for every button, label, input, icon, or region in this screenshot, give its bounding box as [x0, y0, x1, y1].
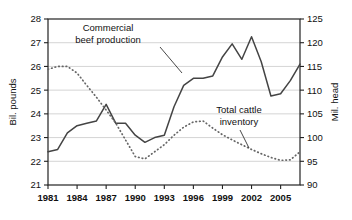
x-tick-label: 1996	[183, 192, 204, 203]
y-tick-label-left: 27	[30, 37, 41, 48]
y-tick-label-right: 95	[307, 156, 318, 167]
y-tick-label-right: 125	[307, 13, 323, 24]
x-tick-label: 2005	[270, 192, 292, 203]
x-tick-label: 1984	[67, 192, 89, 203]
annotation-label: inventory	[220, 116, 259, 127]
y-tick-label-right: 100	[307, 132, 323, 143]
x-axis-tick-labels: 198119841987199019931996199920022005	[37, 192, 291, 203]
x-tick-label: 1999	[212, 192, 233, 203]
y-tick-label-left: 22	[30, 156, 41, 167]
y-tick-label-right: 120	[307, 37, 323, 48]
y-tick-label-right: 115	[307, 61, 322, 72]
y-axis-left-title: Bil. pounds	[7, 78, 18, 125]
x-tick-label: 1993	[154, 192, 175, 203]
dual-axis-line-chart: 198119841987199019931996199920022005 212…	[0, 0, 352, 220]
chart-background	[0, 0, 352, 220]
y-tick-label-left: 23	[30, 132, 41, 143]
y-tick-label-left: 24	[30, 108, 41, 119]
x-tick-label: 1981	[37, 192, 59, 203]
y-tick-label-left: 28	[30, 13, 41, 24]
annotation-label: beef production	[75, 34, 141, 45]
chart-figure: 198119841987199019931996199920022005 212…	[0, 0, 352, 220]
annotation-label: Total cattle	[216, 104, 261, 115]
y-tick-label-left: 26	[30, 61, 41, 72]
y-tick-label-right: 110	[307, 85, 322, 96]
y-tick-label-left: 21	[30, 179, 41, 190]
x-tick-label: 2002	[241, 192, 262, 203]
x-tick-label: 1990	[125, 192, 146, 203]
y-axis-right-title: Mil. head	[329, 83, 340, 122]
x-tick-label: 1987	[96, 192, 117, 203]
y-tick-label-right: 90	[307, 179, 318, 190]
y-tick-label-right: 105	[307, 108, 323, 119]
annotation-label: Commercial	[83, 22, 134, 33]
y-tick-label-left: 25	[30, 85, 41, 96]
